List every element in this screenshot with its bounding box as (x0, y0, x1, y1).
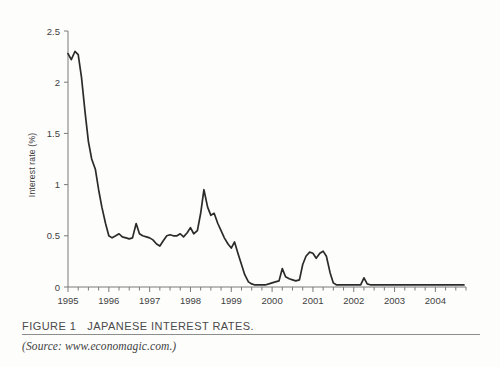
source-suffix: ) (172, 340, 176, 352)
caption-title-row: FIGURE 1 JAPANESE INTEREST RATES. (22, 320, 480, 335)
x-axis-tick-label: 2003 (384, 295, 405, 306)
figure-caption: FIGURE 1 JAPANESE INTEREST RATES. (Sourc… (22, 320, 480, 352)
caption-divider (22, 334, 480, 335)
source-prefix: (Source: (22, 340, 62, 352)
x-axis-tick-label: 2001 (302, 295, 323, 306)
chart-plot-area: 00.511.522.51995199619971998199920002001… (0, 0, 500, 312)
figure-container: 00.511.522.51995199619971998199920002001… (0, 0, 500, 367)
y-axis-tick-label: 1 (55, 179, 60, 190)
figure-number: FIGURE 1 (22, 320, 76, 332)
y-axis-tick-label: 0 (55, 282, 60, 293)
x-axis-tick-label: 2004 (425, 295, 446, 306)
x-axis-tick-label: 2000 (262, 295, 283, 306)
y-axis-tick-label: 0.5 (47, 230, 60, 241)
source-url: www.economagic.com. (65, 340, 172, 352)
x-axis-tick-label: 1999 (221, 295, 242, 306)
x-axis-tick-label: 1998 (180, 295, 201, 306)
figure-title: JAPANESE INTEREST RATES. (87, 320, 254, 332)
x-axis-tick-label: 1996 (98, 295, 119, 306)
x-axis-tick-label: 1995 (57, 295, 78, 306)
x-axis-tick-label: 1997 (139, 295, 160, 306)
x-axis-tick-label: 2002 (343, 295, 364, 306)
data-series-line (68, 51, 464, 284)
y-axis-label: Interest rate (%) (20, 105, 44, 225)
interest-rate-line-chart: 00.511.522.51995199619971998199920002001… (0, 0, 500, 312)
y-axis-tick-label: 2 (55, 77, 60, 88)
y-axis-tick-label: 2.5 (47, 26, 60, 37)
y-axis-tick-label: 1.5 (47, 128, 60, 139)
y-axis-label-text: Interest rate (%) (27, 133, 37, 197)
figure-source: (Source: www.economagic.com.) (22, 340, 480, 352)
